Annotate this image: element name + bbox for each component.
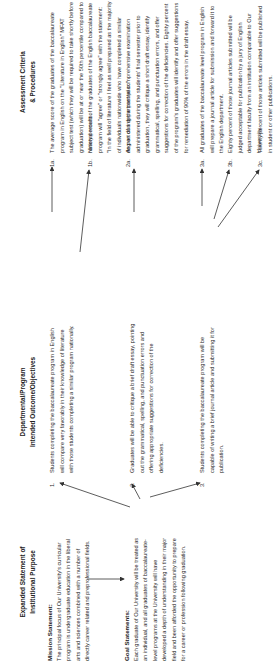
- assessment-text: As part of a departmental comprehensive …: [124, 1, 191, 153]
- objective-number: 2.: [128, 473, 166, 487]
- assessment-item: 3c. Twenty percent of those articles sub…: [256, 1, 275, 167]
- assessment-number: 2a.: [124, 153, 191, 167]
- rotated-document-page: Expanded Statement of Institutional Purp…: [0, 0, 278, 667]
- purpose-column-heading: Expanded Statement of Institutional Purp…: [18, 507, 37, 657]
- arrow-objective-1-to-1b: [80, 170, 89, 252]
- assessment-column-heading: Assessment Criteria & Procedures: [18, 17, 37, 147]
- objective-text: Graduates will be able to critique a bri…: [128, 323, 166, 473]
- assessment-item: 3a. All graduates of the baccalaureate l…: [198, 1, 227, 167]
- purpose-heading-line2: Institutional Purpose: [28, 507, 38, 657]
- arrow-objective-3-to-3c: [218, 170, 259, 227]
- goal-statements-text: Each graduate of Our University will be …: [132, 535, 190, 661]
- objective-text: Students completing the baccalaureate pr…: [198, 323, 227, 473]
- mission-statement-label: Mission Statement:: [45, 533, 55, 661]
- assessment-number: 3a.: [198, 153, 227, 167]
- objective-text: Students completing the baccalaureate pr…: [48, 323, 77, 473]
- assessment-heading-line2: & Procedures: [28, 17, 38, 147]
- objective-number: 3.: [198, 473, 227, 487]
- objectives-heading-line1: Departmental/Program: [18, 327, 28, 477]
- objective-item: 3. Students completing the baccalaureate…: [198, 323, 227, 487]
- objective-number: 1.: [48, 473, 77, 487]
- purpose-heading-line1: Expanded Statement of: [18, 507, 28, 657]
- assessment-item: 2a. As part of a departmental comprehens…: [124, 1, 191, 167]
- goal-statements: Goal Statements: Each graduate of Our Un…: [122, 535, 189, 661]
- objective-item: 1. Students completing the baccalaureate…: [48, 323, 77, 487]
- mission-statement: Mission Statement: The principal focus o…: [45, 533, 93, 661]
- arrow-objective-3-to-3b: [214, 170, 229, 219]
- objectives-heading-line2: Intended Outcome/Objectives: [28, 327, 38, 477]
- assessment-text: All graduates of the baccalaureate level…: [198, 1, 227, 153]
- mission-statement-text: The principal focus of Our University's …: [55, 533, 93, 661]
- goal-statements-label: Goal Statements:: [122, 535, 132, 661]
- assessment-heading-line1: Assessment Criteria: [18, 17, 28, 147]
- objectives-column-heading: Departmental/Program Intended Outcome/Ob…: [18, 327, 37, 477]
- assessment-number: 3c.: [256, 153, 275, 167]
- objective-item: 2. Graduates will be able to critique a …: [128, 323, 166, 487]
- assessment-text: Twenty percent of those articles submitt…: [256, 1, 275, 153]
